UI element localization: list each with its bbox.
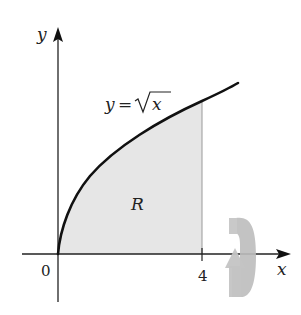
y-axis-label: y xyxy=(36,24,47,44)
region-r xyxy=(58,101,202,254)
origin-label: 0 xyxy=(41,262,51,280)
svg-text:y: y xyxy=(104,94,115,114)
x-axis-label: x xyxy=(277,259,287,279)
function-label-arg: x xyxy=(152,94,162,114)
region-label: R xyxy=(130,194,144,214)
diagram-canvas: y x 0 4 R y = x xyxy=(0,0,301,315)
svg-text:=: = xyxy=(118,94,132,114)
function-label: y = x xyxy=(104,92,171,114)
bound-label-4: 4 xyxy=(198,267,208,285)
rotation-arrow-icon xyxy=(225,218,256,297)
